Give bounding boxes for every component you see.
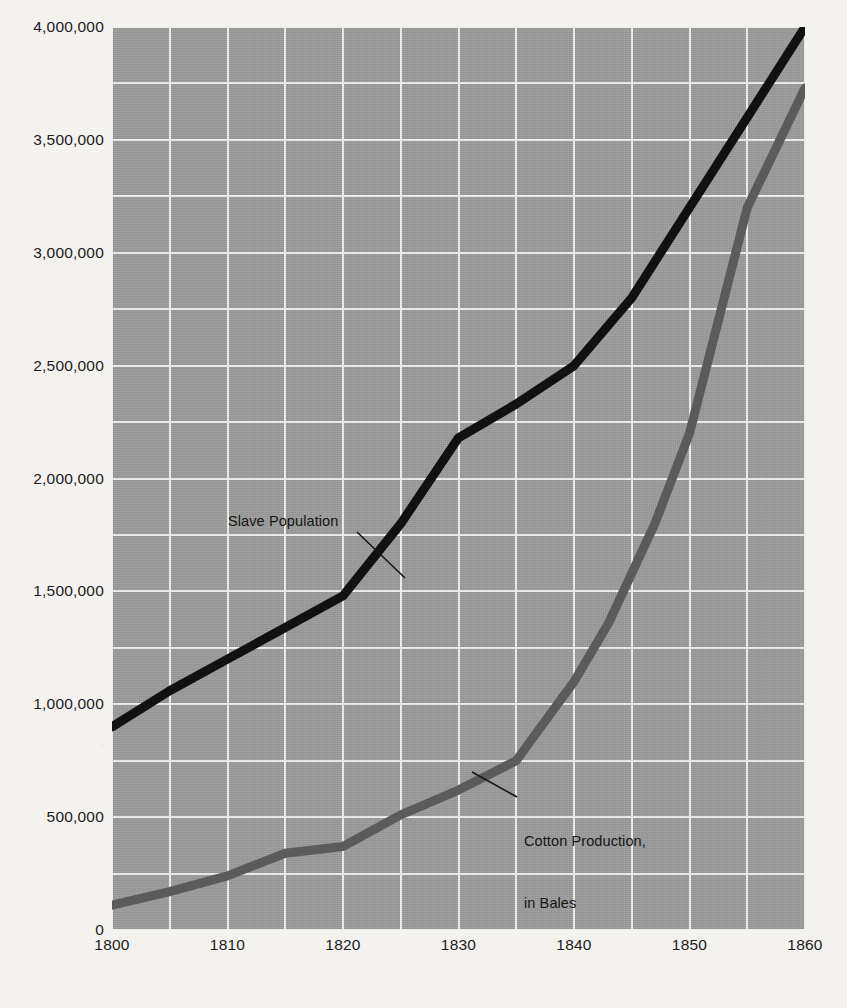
cotton-production-line <box>112 88 805 905</box>
annotation-cotton-production: Cotton Production, in Bales <box>524 790 646 955</box>
x-axis-tick-label: 1830 <box>441 936 476 954</box>
y-axis-tick-label: 1,500,000 <box>0 582 104 600</box>
x-axis-tick-label: 1850 <box>672 936 707 954</box>
chart-figure: 0500,0001,000,0001,500,0002,000,0002,500… <box>0 0 847 1008</box>
y-axis-tick-label: 0 <box>0 921 104 939</box>
annotation-slave-population: Slave Population <box>228 511 338 532</box>
x-axis-tick-label: 1800 <box>94 936 129 954</box>
y-axis-tick-label: 3,000,000 <box>0 244 104 262</box>
y-axis-tick-label: 1,000,000 <box>0 695 104 713</box>
x-axis-tick-label: 1840 <box>556 936 591 954</box>
y-axis: 0500,0001,000,0001,500,0002,000,0002,500… <box>0 0 104 1008</box>
data-lines <box>112 27 805 930</box>
x-axis-tick-label: 1810 <box>210 936 245 954</box>
y-axis-tick-label: 500,000 <box>0 808 104 826</box>
plot-area <box>112 27 805 930</box>
y-axis-tick-label: 2,000,000 <box>0 470 104 488</box>
y-axis-tick-label: 4,000,000 <box>0 18 104 36</box>
x-axis-tick-label: 1860 <box>787 936 822 954</box>
y-axis-tick-label: 3,500,000 <box>0 131 104 149</box>
annotation-cotton-production-line2: in Bales <box>524 893 646 914</box>
y-axis-tick-label: 2,500,000 <box>0 357 104 375</box>
x-axis-tick-label: 1820 <box>325 936 360 954</box>
annotation-cotton-production-line1: Cotton Production, <box>524 831 646 852</box>
